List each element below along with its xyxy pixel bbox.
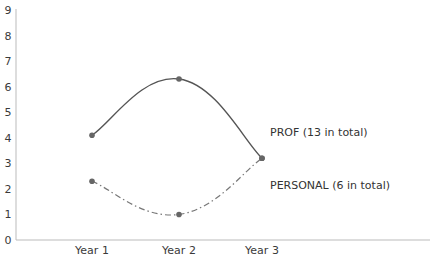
y-tick-label: 6	[5, 81, 12, 94]
x-tick-label: Year 1	[74, 244, 109, 257]
y-tick-label: 7	[5, 55, 12, 68]
series-line-prof	[92, 79, 262, 159]
y-axis: 0123456789	[5, 4, 17, 247]
legend-label-personal: PERSONAL (6 in total)	[270, 179, 390, 192]
y-tick-labels: 0123456789	[5, 4, 12, 247]
line-chart: 0123456789 Year 1Year 2Year 3 PROF (13 i…	[0, 0, 433, 258]
y-tick-label: 1	[5, 208, 12, 221]
data-point-marker	[176, 212, 182, 218]
y-tick-label: 4	[5, 132, 12, 145]
x-axis: Year 1Year 2Year 3	[16, 240, 430, 257]
legend-label-prof: PROF (13 in total)	[270, 126, 368, 139]
y-tick-label: 8	[5, 30, 12, 43]
y-tick-label: 0	[5, 234, 12, 247]
data-point-marker	[259, 155, 265, 161]
y-tick-label: 3	[5, 157, 12, 170]
legend: PROF (13 in total)PERSONAL (6 in total)	[270, 126, 390, 192]
series-group	[89, 76, 265, 217]
data-point-marker	[176, 76, 182, 82]
x-tick-labels: Year 1Year 2Year 3	[74, 244, 279, 257]
x-tick-label: Year 2	[161, 244, 196, 257]
series-line-personal	[92, 158, 262, 215]
y-tick-label: 5	[5, 106, 12, 119]
y-tick-label: 9	[5, 4, 12, 17]
data-point-marker	[89, 132, 95, 138]
x-tick-label: Year 3	[244, 244, 279, 257]
y-tick-label: 2	[5, 183, 12, 196]
data-point-marker	[89, 178, 95, 184]
